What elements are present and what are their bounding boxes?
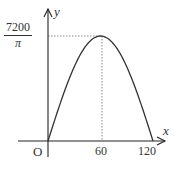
- y-tick-fraction: 7200 π: [4, 21, 32, 49]
- origin-label: O: [33, 145, 42, 158]
- y-axis-label: y: [54, 5, 60, 18]
- x-tick-60: 60: [95, 145, 107, 157]
- x-axis-label: x: [163, 124, 169, 137]
- x-tick-120: 120: [138, 145, 156, 157]
- sine-curve: [48, 36, 153, 141]
- y-tick-denominator: π: [4, 37, 32, 49]
- y-tick-numerator: 7200: [4, 21, 32, 33]
